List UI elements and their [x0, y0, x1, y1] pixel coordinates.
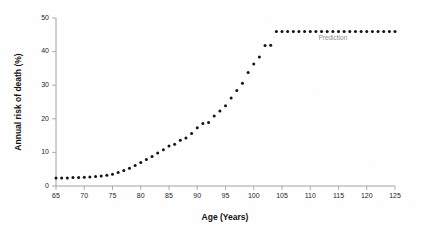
data-point [235, 89, 238, 92]
x-tick-label: 80 [137, 192, 145, 199]
data-point [201, 122, 204, 125]
data-point [156, 152, 159, 155]
series-prediction [275, 30, 397, 33]
data-point [88, 175, 91, 178]
y-tick-label: 30 [41, 81, 49, 88]
data-point [117, 171, 120, 174]
data-point [77, 176, 80, 179]
data-point [354, 30, 357, 33]
x-tick-label: 115 [333, 192, 344, 199]
data-point [297, 30, 300, 33]
x-tick-label: 85 [165, 192, 173, 199]
data-point [218, 110, 221, 113]
data-point [71, 176, 74, 179]
x-tick-label: 125 [389, 192, 401, 199]
data-point [320, 30, 323, 33]
data-point [60, 176, 63, 179]
y-axis-title: Annual risk of death (%) [13, 53, 23, 150]
data-point [213, 115, 216, 118]
data-point [264, 44, 267, 47]
data-point [348, 30, 351, 33]
data-point [128, 167, 131, 170]
x-tick-label: 75 [109, 192, 117, 199]
figure-canvas: 01020304050 Annual risk of death (%) 657… [0, 0, 426, 234]
data-point [162, 148, 165, 151]
data-point [55, 176, 58, 179]
data-point [66, 176, 69, 179]
data-point [275, 30, 278, 33]
data-point [111, 173, 114, 176]
data-point [314, 30, 317, 33]
data-point [190, 132, 193, 135]
data-point [258, 55, 261, 58]
y-tick-label: 10 [41, 148, 49, 155]
data-point [184, 136, 187, 139]
data-point [365, 30, 368, 33]
data-point [105, 174, 108, 177]
data-point [134, 164, 137, 167]
data-point [337, 30, 340, 33]
y-tick-label: 0 [45, 182, 49, 189]
data-point [100, 174, 103, 177]
y-axis-ticks: 01020304050 [41, 14, 56, 189]
data-point [168, 145, 171, 148]
x-tick-label: 95 [222, 192, 230, 199]
data-point [224, 104, 227, 107]
x-tick-label: 120 [361, 192, 373, 199]
data-point [303, 30, 306, 33]
data-point [173, 143, 176, 146]
data-point [122, 169, 125, 172]
x-axis-title: Age (Years) [202, 212, 249, 222]
data-point [94, 175, 97, 178]
x-tick-label: 70 [80, 192, 88, 199]
x-tick-label: 110 [305, 192, 316, 199]
series-observed [55, 44, 273, 180]
annotation-layer: Prediction [318, 34, 347, 41]
x-tick-label: 90 [193, 192, 201, 199]
prediction-annotation-label: Prediction [318, 34, 347, 41]
data-point [139, 161, 142, 164]
data-point [360, 30, 363, 33]
data-point [247, 71, 250, 74]
data-point [343, 30, 346, 33]
data-point [269, 44, 272, 47]
x-tick-label: 105 [276, 192, 288, 199]
data-point [377, 30, 380, 33]
y-tick-label: 40 [41, 47, 49, 54]
x-axis-ticks: 65707580859095100105110115120125 [52, 186, 401, 199]
x-tick-label: 65 [52, 192, 60, 199]
data-point [281, 30, 284, 33]
data-point [83, 176, 86, 179]
data-series-layer [55, 30, 397, 180]
data-point [196, 126, 199, 129]
data-point [286, 30, 289, 33]
y-axis: 01020304050 Annual risk of death (%) [13, 14, 56, 189]
data-point [388, 30, 391, 33]
x-tick-label: 100 [248, 192, 260, 199]
data-point [326, 30, 329, 33]
data-point [207, 121, 210, 124]
data-point [382, 30, 385, 33]
data-point [230, 96, 233, 99]
data-point [151, 155, 154, 158]
data-point [394, 30, 397, 33]
x-axis: 65707580859095100105110115120125 Age (Ye… [52, 186, 401, 222]
data-point [309, 30, 312, 33]
data-point [241, 82, 244, 85]
data-point [292, 30, 295, 33]
data-point [145, 158, 148, 161]
data-point [331, 30, 334, 33]
data-point [179, 139, 182, 142]
scatter-chart: 01020304050 Annual risk of death (%) 657… [0, 0, 426, 234]
data-point [371, 30, 374, 33]
data-point [252, 63, 255, 66]
y-tick-label: 50 [41, 14, 49, 21]
y-tick-label: 20 [41, 115, 49, 122]
